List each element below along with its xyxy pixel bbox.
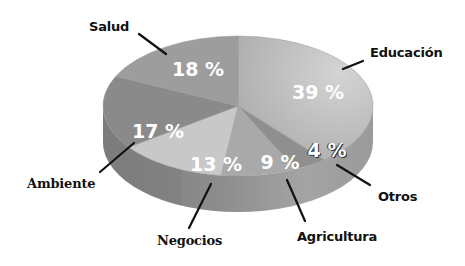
category-label-ambiente: Ambiente: [27, 176, 95, 191]
pie-chart: [0, 0, 465, 266]
value-label-salud: 18 %: [172, 58, 224, 80]
value-label-negocios: 13 %: [190, 153, 242, 175]
value-label-otros: 4 %: [308, 139, 347, 161]
category-label-otros: Otros: [378, 189, 417, 204]
category-label-negocios: Negocios: [157, 233, 222, 248]
leader-line-salud: [139, 34, 166, 54]
value-label-educacion: 39 %: [292, 81, 344, 103]
category-label-agricultura: Agricultura: [297, 229, 377, 244]
category-label-educacion: Educación: [370, 45, 442, 60]
value-label-agricultura: 9 %: [261, 151, 300, 173]
category-label-salud: Salud: [89, 19, 129, 34]
value-label-ambiente: 17 %: [132, 120, 184, 142]
